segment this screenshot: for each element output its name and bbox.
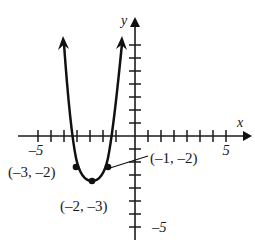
x-axis-arrow-icon <box>243 131 252 141</box>
plotted-points-group <box>73 164 112 185</box>
data-point-left <box>73 164 80 171</box>
data-point-right <box>105 164 112 171</box>
graph-figure: x –5 5 <box>0 0 255 249</box>
point-label-left: (–3, –2) <box>8 164 56 181</box>
y-axis-label: y <box>119 13 128 28</box>
leader-line-to-right-point <box>110 156 148 168</box>
y-axis-arrow-icon <box>130 17 140 27</box>
parabola-curve <box>64 44 122 181</box>
parabola-plot-svg: x –5 5 <box>0 0 255 249</box>
point-label-right: (–1, –2) <box>150 150 198 167</box>
parabola-curve-group <box>58 36 127 181</box>
y-axis-group: y –5 <box>119 13 167 240</box>
x-axis-label: x <box>236 115 244 130</box>
data-point-vertex <box>89 178 96 185</box>
x-tick-label-negative-five: –5 <box>28 142 44 158</box>
y-tick-label-negative-five: –5 <box>151 219 167 235</box>
x-tick-label-positive-five: 5 <box>222 142 229 158</box>
point-label-vertex: (–2, –3) <box>60 198 108 215</box>
